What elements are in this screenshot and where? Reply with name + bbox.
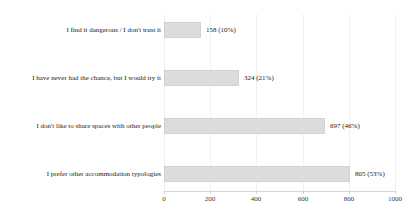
bar-chart: I find it dangerous / I don't trust it 1… — [0, 0, 410, 224]
gridline — [303, 14, 304, 191]
value-label: 158 (10%) — [206, 25, 236, 35]
gridline — [349, 14, 350, 191]
x-axis-tick-label: 200 — [195, 195, 225, 204]
gridline — [164, 14, 165, 191]
bar-row: I don't like to share spaces with other … — [0, 118, 410, 134]
bar[interactable] — [164, 166, 350, 182]
bar[interactable] — [164, 70, 239, 86]
bar[interactable] — [164, 118, 325, 134]
value-label: 324 (21%) — [244, 73, 274, 83]
bar-row: I have never had the chance, but I would… — [0, 70, 410, 86]
bar-row: I find it dangerous / I don't trust it 1… — [0, 22, 410, 38]
x-axis-tick — [349, 191, 350, 194]
value-label: 697 (46%) — [330, 121, 360, 131]
x-axis-tick-label: 600 — [288, 195, 318, 204]
gridline — [395, 14, 396, 191]
x-axis-line — [164, 191, 395, 192]
bar[interactable] — [164, 22, 201, 38]
x-axis-tick-label: 400 — [241, 195, 271, 204]
category-label: I don't like to share spaces with other … — [36, 121, 161, 131]
x-axis-tick — [210, 191, 211, 194]
gridline — [256, 14, 257, 191]
x-axis-tick-label: 800 — [334, 195, 364, 204]
x-axis-tick — [256, 191, 257, 194]
value-label: 805 (53%) — [355, 169, 385, 179]
x-axis-tick-label: 0 — [149, 195, 179, 204]
category-label: I find it dangerous / I don't trust it — [66, 25, 161, 35]
x-axis-tick — [164, 191, 165, 194]
plot-area: I find it dangerous / I don't trust it 1… — [0, 0, 410, 224]
x-axis-tick-label: 1000 — [380, 195, 410, 204]
x-axis-tick — [395, 191, 396, 194]
bar-row: I prefer other accommodation typologies … — [0, 166, 410, 182]
gridline — [210, 14, 211, 191]
category-label: I prefer other accommodation typologies — [47, 169, 161, 179]
x-axis-tick — [303, 191, 304, 194]
category-label: I have never had the chance, but I would… — [32, 73, 161, 83]
